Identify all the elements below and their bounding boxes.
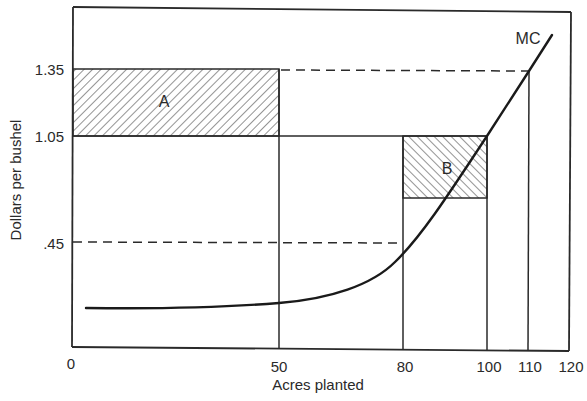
x-tick-110: 110: [518, 358, 542, 375]
region-a-label: A: [159, 93, 170, 110]
x-tick-100: 100: [476, 358, 501, 375]
hline-045-dashed: [73, 242, 403, 243]
vline-110: [528, 71, 529, 351]
y-tick-1-05: 1.05: [35, 128, 64, 145]
x-tick-50: 50: [271, 358, 288, 375]
y-axis-title: Dollars per bushel: [7, 120, 24, 241]
plot-frame: [72, 7, 571, 351]
x-tick-0: 0: [67, 355, 75, 372]
y-tick-1-35: 1.35: [35, 61, 64, 78]
mc-label: MC: [516, 30, 541, 47]
x-axis-title: Acres planted: [272, 376, 364, 393]
region-b-label: B: [442, 160, 453, 177]
hline-135-dashed: [281, 70, 529, 71]
x-tick-120: 120: [558, 358, 583, 375]
mc-chart: A B MC 1.35 1.05 .45 0 50 80 100 110 120…: [0, 0, 587, 401]
y-tick-0-45: .45: [43, 235, 64, 252]
x-tick-80: 80: [397, 358, 414, 375]
region-a: [73, 69, 279, 136]
